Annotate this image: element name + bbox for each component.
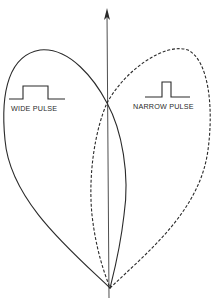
diagram-canvas xyxy=(0,0,213,305)
narrow-pulse-label: NARROW PULSE xyxy=(133,102,194,111)
wide-pulse-icon xyxy=(9,86,65,99)
vertical-axis xyxy=(107,14,109,298)
wide-pulse-label: WIDE PULSE xyxy=(11,104,57,113)
narrow-pulse-icon xyxy=(145,82,190,97)
